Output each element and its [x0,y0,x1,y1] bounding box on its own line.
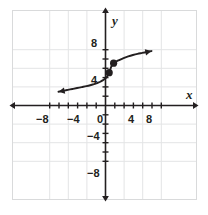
y-tick-label: 8 [91,38,97,49]
x-tick-label: −8 [36,114,49,125]
figure-background [0,0,208,215]
data-point [106,69,113,76]
x-tick-label: 4 [128,114,134,125]
y-tick-label: −8 [87,168,100,179]
x-axis-label: x [186,88,193,101]
coordinate-plane-svg [0,0,208,215]
y-tick-label: −4 [87,131,100,142]
graph-figure: x y −8−4048 84−4−8 [0,0,208,215]
x-tick-label: 0 [97,114,103,125]
data-point [110,60,117,67]
x-tick-label: 8 [146,114,152,125]
y-tick-label: 4 [91,75,97,86]
x-tick-label: −4 [67,114,80,125]
y-axis-label: y [112,14,118,27]
